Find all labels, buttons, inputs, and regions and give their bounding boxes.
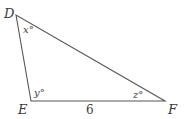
- side-label-ef: 6: [86, 103, 94, 117]
- vertex-label-e: E: [17, 102, 28, 117]
- triangle-diagram: D E F x° y° z° 6: [0, 0, 184, 119]
- vertex-label-d: D: [3, 6, 15, 21]
- vertex-label-f: F: [167, 102, 178, 117]
- angle-label-z: z°: [132, 89, 143, 100]
- angle-label-y: y°: [33, 87, 45, 98]
- angle-label-x: x°: [23, 24, 34, 35]
